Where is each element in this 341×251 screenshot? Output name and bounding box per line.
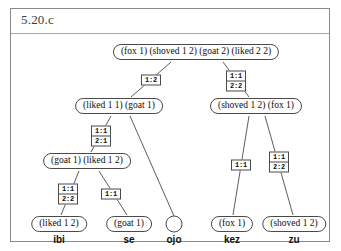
tree-node[interactable]: (liked 1 1) (goat 1) [75,98,163,114]
terminal-word-label: ojo [167,234,182,245]
edge-label-box: 1:12:1 [91,126,111,147]
terminal-word-label: kez [224,234,240,245]
tree-node[interactable]: (fox 1) [211,216,253,232]
tree-node-empty[interactable] [166,216,183,233]
tree-node[interactable]: (goat 1) (liked 1 2) [43,153,131,169]
edge-label-row: 1:1 [59,185,77,194]
page-title: 5.20.c [21,12,54,28]
tree-node[interactable]: (goat 1) [106,216,152,232]
edge-label-box: 1:1 [101,189,121,200]
edge-label-row: 2:2 [270,162,288,172]
tree-edge-layer [11,34,329,241]
tree-node[interactable]: (shoved 1 2) [262,216,326,232]
panel-header: 5.20.c [11,9,329,34]
edge-label-row: 1:1 [232,161,250,170]
edge-label-row: 1:2 [142,76,160,85]
tree-node[interactable]: (shoved 1 2) (fox 1) [210,98,302,114]
figure-panel: 5.20.c (fox 1) (shoved 1 2) (goat 2) (li… [10,8,330,242]
terminal-word-label: zu [288,234,299,245]
terminal-word-label: ibi [53,234,65,245]
edge-label-row: 2:2 [227,81,245,91]
tree-edge [130,116,174,216]
terminal-word-label: se [123,234,134,245]
tree-node[interactable]: (fox 1) (shoved 1 2) (goat 2) (liked 2 2… [113,44,279,60]
edge-label-row: 1:1 [102,190,120,199]
edge-label-row: 2:2 [59,194,77,204]
edge-label-box: 1:1 [231,160,251,171]
edge-label-box: 1:12:2 [226,71,246,92]
parse-tree-canvas: (fox 1) (shoved 1 2) (goat 2) (liked 2 2… [11,34,329,241]
edge-label-box: 1:12:2 [269,152,289,173]
edge-label-row: 1:1 [270,153,288,162]
edge-label-row: 2:1 [92,136,110,146]
edge-label-row: 1:1 [227,72,245,81]
edge-label-row: 1:1 [92,127,110,136]
tree-node[interactable]: (liked 1 2) [31,216,87,232]
edge-label-box: 1:2 [141,75,161,86]
edge-label-box: 1:12:2 [58,184,78,205]
screenshot-root: 5.20.c (fox 1) (shoved 1 2) (goat 2) (li… [0,0,341,251]
